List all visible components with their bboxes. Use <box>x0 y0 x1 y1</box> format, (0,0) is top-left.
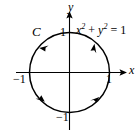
y-axis-label: y <box>68 1 73 13</box>
x-axis-label: x <box>129 64 134 76</box>
figure-canvas <box>0 0 139 137</box>
tick-label-y-positive-one: 1 <box>60 26 66 38</box>
curve-label-c: C <box>32 25 41 38</box>
tick-label-y-negative-one: −1 <box>56 111 69 123</box>
equation-right-hand-side: 1 <box>120 23 126 37</box>
direction-arrowhead-upper-left <box>39 45 48 51</box>
tick-label-x-positive-one: 1 <box>106 73 112 85</box>
equation-plus-operator: + <box>85 23 98 37</box>
equation-equals-operator: = <box>107 23 120 37</box>
tick-label-x-negative-one: −1 <box>13 73 26 85</box>
circle-equation-label: x2 + y2 = 1 <box>76 24 126 36</box>
unit-circle-figure: y x C 1 1 −1 −1 x2 + y2 = 1 <box>0 0 139 137</box>
direction-arrowhead-upper-right <box>91 44 97 54</box>
